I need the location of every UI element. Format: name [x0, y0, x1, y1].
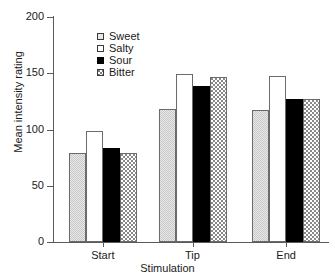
legend-item-sweet: Sweet: [97, 31, 140, 42]
bar-end-sour: [286, 99, 303, 242]
bar-tip-salty: [176, 74, 193, 242]
bar-tip-sweet: [159, 109, 176, 242]
bar-end-bitter: [303, 99, 320, 242]
legend-label: Bitter: [109, 67, 135, 78]
legend-swatch-bitter-icon: [97, 69, 104, 76]
legend-swatch-sweet-icon: [97, 33, 104, 40]
bar-start-salty: [86, 131, 103, 242]
y-axis-tick-label: 200: [0, 11, 44, 22]
x-axis-group-label-tip: Tip: [153, 249, 233, 261]
legend-item-bitter: Bitter: [97, 67, 140, 78]
bar-start-sour: [103, 148, 120, 243]
x-axis-tick: [193, 243, 194, 247]
x-axis-group-label-end: End: [246, 249, 326, 261]
legend: SweetSaltySourBitter: [97, 31, 140, 79]
bar-tip-sour: [193, 86, 210, 242]
legend-swatch-sour-icon: [97, 57, 104, 64]
bar-start-sweet: [69, 153, 86, 242]
legend-swatch-salty-icon: [97, 45, 104, 52]
y-axis-tick: [47, 242, 53, 243]
x-axis-tick: [103, 243, 104, 247]
y-axis-tick-label: 0: [0, 236, 44, 247]
bar-start-bitter: [120, 153, 137, 242]
legend-label: Sour: [109, 55, 132, 66]
legend-item-salty: Salty: [97, 43, 140, 54]
bar-chart: 050100150200 StartTipEnd Mean intensity …: [0, 0, 335, 275]
y-axis-tick-label: 50: [0, 180, 44, 191]
legend-label: Sweet: [109, 31, 140, 42]
x-axis-group-label-start: Start: [63, 249, 143, 261]
legend-label: Salty: [109, 43, 133, 54]
bar-tip-bitter: [210, 77, 227, 242]
y-axis-title: Mean intensity rating: [12, 32, 24, 172]
legend-item-sour: Sour: [97, 55, 140, 66]
bar-end-salty: [269, 76, 286, 242]
x-axis-line: [53, 242, 329, 243]
plot-area: [53, 17, 328, 242]
x-axis-title: Stimulation: [0, 262, 335, 274]
x-axis-tick: [286, 243, 287, 247]
bar-end-sweet: [252, 110, 269, 242]
